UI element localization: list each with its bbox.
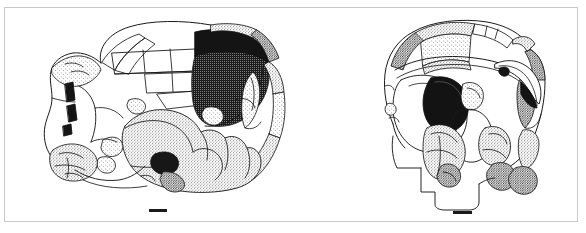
panel-frontal-view <box>335 8 577 223</box>
scale-bar-frontal <box>453 211 472 214</box>
figure-plate <box>0 0 586 233</box>
plate-frame <box>4 7 578 222</box>
skull-lateral-illustration <box>5 8 335 223</box>
panel-lateral-view <box>5 8 335 223</box>
skull-frontal-illustration <box>335 8 577 223</box>
scale-bar-lateral <box>149 209 167 212</box>
